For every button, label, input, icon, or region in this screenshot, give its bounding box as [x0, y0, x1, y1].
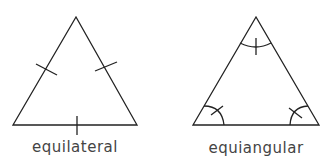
equiangular-triangle: [193, 17, 319, 125]
equilateral-label: equilateral: [15, 138, 135, 156]
left-side-tick: [36, 64, 57, 75]
equilateral-triangle: [13, 17, 137, 135]
equiangular-label: equiangular: [196, 139, 316, 157]
right-angle-tick: [289, 108, 302, 118]
left-angle-arc: [204, 106, 224, 125]
